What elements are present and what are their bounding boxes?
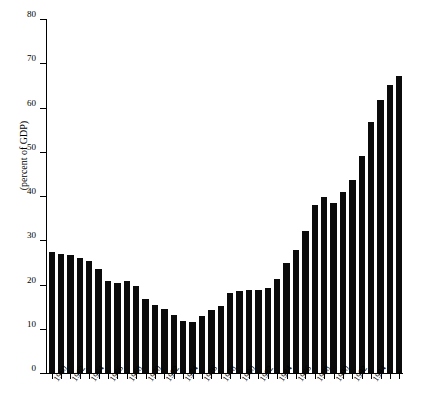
bar [265,288,271,373]
bar [180,321,186,373]
y-tick-label: 70 [12,54,36,63]
bar [293,250,299,373]
bar [255,290,261,373]
y-tick-label: 20 [12,276,36,285]
y-tick-label: 0 [12,364,36,373]
bar [218,306,224,373]
bar [321,197,327,373]
bar [49,252,55,373]
bar [330,203,336,373]
y-axis-title: (percent of GDP) [18,91,29,221]
bar [105,281,111,373]
bar-chart: 01020304050607080 (percent of GDP) 19601… [0,0,422,417]
bar [377,100,383,373]
bar [86,261,92,373]
y-tick-label: 10 [12,320,36,329]
bar [274,279,280,373]
bar [67,255,73,373]
x-tick [390,374,391,379]
bar [368,122,374,373]
x-tick [399,374,400,379]
bar [161,309,167,373]
bar [283,263,289,373]
bar [58,254,64,373]
bar [302,231,308,373]
bar [114,283,120,373]
bar [312,205,318,373]
bar [199,316,205,373]
bar [133,286,139,373]
bar [396,76,402,373]
bar [246,290,252,373]
bar [340,192,346,373]
bar [349,180,355,373]
bar [227,293,233,373]
bar [124,281,130,373]
bars-layer [46,19,403,373]
bar [77,258,83,373]
bar [359,156,365,373]
y-tick-label: 30 [12,231,36,240]
bar [387,85,393,373]
y-tick-label: 80 [12,10,36,19]
bar [95,269,101,373]
bar [142,299,148,373]
bar [236,291,242,373]
